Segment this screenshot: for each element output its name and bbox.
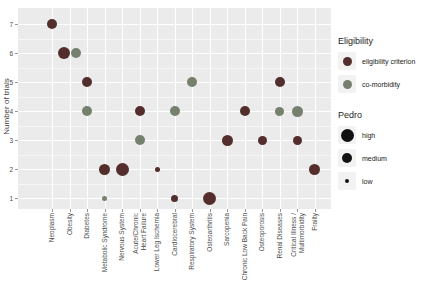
legend-item-co-morbidity: co-morbidity [338, 75, 434, 93]
legend-item-label: co-morbidity [362, 81, 400, 88]
data-point [116, 163, 129, 176]
gridline-major-v [70, 8, 71, 209]
pedro-high-dot-icon [341, 129, 354, 142]
legend-key [338, 149, 356, 167]
gridline-major-v [227, 8, 228, 209]
x-axis-tick [140, 209, 141, 212]
legend-item-label: low [362, 178, 373, 185]
pedro-medium-dot-icon [342, 153, 352, 163]
x-axis-tick [87, 209, 88, 212]
x-axis-category-label: Sarcopenia [223, 213, 231, 299]
y-axis-tick-label: 4 [3, 108, 13, 115]
x-axis-category-label: Obesity [66, 213, 74, 299]
x-axis-tick [192, 209, 193, 212]
x-axis-tick [210, 209, 211, 212]
bubble-chart-figure: Number of trials 1234567NeoplasmObesityD… [0, 0, 436, 304]
x-axis-category-label: Diabetes [83, 213, 91, 299]
y-axis-tick-label: 1 [3, 195, 13, 202]
x-axis-category-label: Cardiocerebral [171, 213, 179, 299]
legend-key [338, 75, 356, 93]
data-point [170, 106, 180, 116]
co-morbidity-dot-icon [343, 80, 352, 89]
data-point [292, 106, 303, 117]
x-axis-tick [105, 209, 106, 212]
x-axis-tick [227, 209, 228, 212]
x-axis-tick [157, 209, 158, 212]
legend-title-eligibility: Eligibility [338, 36, 434, 46]
data-point [135, 135, 145, 145]
legend-item-label: eligibility criterion [362, 58, 415, 65]
y-axis-tick [15, 169, 18, 170]
data-point [258, 136, 267, 145]
y-axis-tick [15, 198, 18, 199]
x-axis-category-label: Osteoarthritis [206, 213, 214, 299]
y-axis-tick-label: 5 [3, 79, 13, 86]
data-point [155, 167, 160, 172]
x-axis-category-label: Respiratory System [188, 213, 196, 299]
x-axis-category-label: Nervous System [118, 213, 126, 299]
x-axis-category-label: Metabolic Syndrome [101, 213, 109, 299]
legend-key [338, 126, 356, 144]
pedro-low-dot-icon [345, 179, 350, 184]
legend-item-eligibility-criterion: eligibility criterion [338, 52, 434, 70]
x-axis-category-label: Osteoporosis [258, 213, 266, 299]
legend-key [338, 172, 356, 190]
y-axis-tick-label: 6 [3, 50, 13, 57]
gridline-major-v [210, 8, 211, 209]
gridline-major-v [52, 8, 53, 209]
x-axis-tick [122, 209, 123, 212]
data-point [171, 195, 178, 202]
y-axis-title: Number of trials [2, 7, 11, 207]
x-axis-category-label: Critical Illness / Multimorbidity [290, 213, 305, 299]
x-axis-tick [245, 209, 246, 212]
x-axis-category-label: Neoplasm [48, 213, 56, 299]
x-axis-category-label: Acute/Chronic Heart Failure [132, 213, 147, 299]
y-axis-tick-label: 2 [3, 166, 13, 173]
legend-item-pedro-high: high [338, 126, 434, 144]
legend-item-pedro-low: low [338, 172, 434, 190]
data-point [58, 47, 70, 59]
data-point [222, 135, 233, 146]
gridline-major-v [262, 8, 263, 209]
data-point [82, 106, 92, 116]
legend-item-pedro-medium: medium [338, 149, 434, 167]
gridline-major-v [157, 8, 158, 209]
data-point [102, 196, 107, 201]
legend-item-label: high [362, 132, 375, 139]
eligibility-criterion-dot-icon [343, 57, 352, 66]
x-axis-category-label: Lower Leg Ischemia [153, 213, 161, 299]
x-axis-tick [52, 209, 53, 212]
gridline-major-v [105, 8, 106, 209]
gridline-major-v [122, 8, 123, 209]
data-point [275, 107, 284, 116]
x-axis-category-label: Renal Diseases [276, 213, 284, 299]
x-axis-category-label: Frailty [311, 213, 319, 299]
x-axis-tick [297, 209, 298, 212]
gridline-major-v [315, 8, 316, 209]
data-point [135, 106, 145, 116]
y-axis-tick [15, 24, 18, 25]
legend-key [338, 52, 356, 70]
y-axis-tick [15, 53, 18, 54]
data-point [203, 192, 216, 205]
x-axis-tick [315, 209, 316, 212]
gridline-major-v [192, 8, 193, 209]
data-point [82, 77, 92, 87]
data-point [240, 106, 250, 116]
x-axis-tick [280, 209, 281, 212]
data-point [47, 19, 57, 29]
legend-item-label: medium [362, 155, 387, 162]
data-point [187, 77, 197, 87]
legend: Eligibility eligibility criterion co-mor… [338, 36, 434, 195]
x-axis-category-label: Chronic Low Back Pain [241, 213, 249, 299]
data-point [293, 136, 302, 145]
data-point [275, 77, 285, 87]
data-point [309, 164, 320, 175]
x-axis-tick [70, 209, 71, 212]
y-axis-tick [15, 140, 18, 141]
legend-title-pedro: Pedro [338, 110, 434, 120]
x-axis-tick [175, 209, 176, 212]
y-axis-tick-label: 7 [3, 21, 13, 28]
data-point [99, 164, 110, 175]
y-axis-tick-label: 3 [3, 137, 13, 144]
